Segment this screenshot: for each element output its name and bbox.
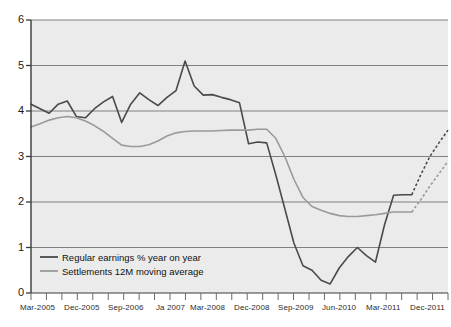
y-axis-label-5: 5 [4, 60, 24, 71]
x-axis-label-mar-2005: Mar-2005 [20, 303, 55, 312]
y-axis-label-3: 3 [4, 151, 24, 162]
chart-canvas [0, 0, 451, 327]
x-axis-label-sep-2006: Sep-2006 [108, 303, 144, 312]
x-axis-label-dec-2008: Dec-2008 [234, 303, 270, 312]
x-axis-label-dec-2005: Dec-2005 [64, 303, 100, 312]
y-axis-label-0: 0 [4, 287, 24, 298]
y-axis-label-4: 4 [4, 105, 24, 116]
legend-label-settlements: Settlements 12M moving average [62, 266, 204, 277]
x-axis-label-dec-2011: Dec-2011 [410, 303, 445, 312]
legend-label-regular-earnings: Regular earnings % year on year [62, 252, 201, 263]
x-axis-label-ja-2007: Ja 2007 [156, 303, 185, 312]
x-axis-label-jun-2010: Jun-2010 [322, 303, 356, 312]
x-axis-label-mar-2011: Mar-2011 [366, 303, 400, 312]
y-axis-label-6: 6 [4, 14, 24, 25]
y-axis-label-2: 2 [4, 196, 24, 207]
x-axis-label-sep-2009: Sep-2009 [278, 303, 314, 312]
line-chart: 6 5 4 3 2 1 0 Mar-2005 Dec-2005 Sep-2006… [0, 0, 451, 327]
x-axis-label-mar-2008: Mar-2008 [190, 303, 225, 312]
y-axis-label-1: 1 [4, 242, 24, 253]
